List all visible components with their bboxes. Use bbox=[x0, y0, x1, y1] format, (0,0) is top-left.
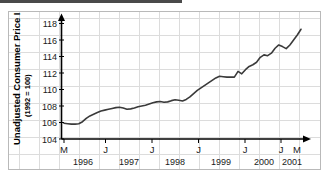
cpi-line-chart: Unadjusted Consumer Price Index (1992 = … bbox=[9, 12, 320, 169]
y-tick-labels: 118 116 114 112 110 108 106 104 bbox=[42, 19, 57, 145]
x-tick-j-2001: J bbox=[279, 144, 284, 155]
y-tick-108: 108 bbox=[42, 102, 57, 112]
x-tick-labels: M J J J J J M bbox=[60, 144, 301, 155]
x-tick-j-1997: J bbox=[103, 144, 108, 155]
y-axis-title: Unadjusted Consumer Price Index bbox=[11, 12, 22, 145]
chart-screenshot: Unadjusted Consumer Price Index (1992 = … bbox=[0, 0, 330, 183]
y-tick-118: 118 bbox=[43, 19, 57, 29]
x-year-1997: 1997 bbox=[119, 157, 139, 167]
x-year-1999: 1999 bbox=[211, 157, 231, 167]
x-tick-j-1999: J bbox=[196, 144, 201, 155]
x-year-2001: 2001 bbox=[282, 157, 302, 167]
y-tick-110: 110 bbox=[43, 85, 57, 95]
x-tick-j-1998: J bbox=[150, 144, 155, 155]
y-tick-104: 104 bbox=[42, 135, 57, 145]
y-axis-subtitle: (1992 = 100) bbox=[23, 74, 32, 117]
page-top-rule bbox=[0, 0, 182, 3]
x-year-1998: 1998 bbox=[165, 157, 185, 167]
x-tick-m-1996: M bbox=[60, 144, 68, 155]
y-tick-114: 114 bbox=[43, 52, 57, 62]
x-year-2000: 2000 bbox=[254, 157, 274, 167]
x-year-1996: 1996 bbox=[73, 157, 93, 167]
y-tick-106: 106 bbox=[42, 118, 57, 128]
chart-frame: Unadjusted Consumer Price Index (1992 = … bbox=[8, 11, 321, 170]
y-tick-116: 116 bbox=[43, 36, 57, 46]
x-year-labels: 1996 1997 1998 1999 2000 2001 bbox=[73, 157, 302, 167]
y-tick-112: 112 bbox=[43, 69, 57, 79]
x-axis-arrow bbox=[303, 136, 311, 143]
x-tick-j-2000: J bbox=[243, 144, 248, 155]
x-tick-m-2001: M bbox=[293, 144, 301, 155]
